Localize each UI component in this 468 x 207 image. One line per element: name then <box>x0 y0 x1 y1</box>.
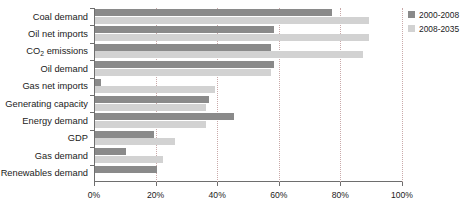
y-tick-mark <box>90 147 94 148</box>
x-tick-label: 20% <box>147 190 164 200</box>
category-label: GDP <box>68 133 88 143</box>
y-tick-mark <box>90 130 94 131</box>
category-label: Generating capacity <box>5 99 88 109</box>
bar <box>95 9 332 16</box>
bar <box>95 79 101 86</box>
bar <box>95 61 274 68</box>
legend-swatch-icon <box>408 11 415 18</box>
category-label: Oil net imports <box>28 29 88 39</box>
x-tick-mark <box>340 182 341 186</box>
x-tick-label: 40% <box>209 190 226 200</box>
bar <box>95 131 154 138</box>
category-label: Gas demand <box>35 151 88 161</box>
x-axis-line <box>94 181 402 182</box>
y-tick-mark <box>90 112 94 113</box>
x-tick-label: 60% <box>270 190 287 200</box>
x-tick-mark <box>156 182 157 186</box>
category-label: Gas net imports <box>22 81 88 91</box>
y-tick-mark <box>90 8 94 9</box>
y-tick-mark <box>90 95 94 96</box>
legend-swatch-icon <box>408 25 415 32</box>
legend-item[interactable]: 2000-2008 <box>408 8 468 21</box>
x-tick-label: 0% <box>88 190 100 200</box>
bar <box>95 34 369 41</box>
bar <box>95 138 175 145</box>
category-label: CO2 emissions <box>26 46 88 57</box>
bar <box>95 26 274 33</box>
y-tick-mark <box>90 25 94 26</box>
bar <box>95 166 157 173</box>
legend-label: 2000-2008 <box>419 10 459 20</box>
bar <box>95 44 271 51</box>
bar <box>95 86 215 93</box>
bar <box>95 69 271 76</box>
y-tick-mark <box>90 60 94 61</box>
bar <box>95 104 206 111</box>
legend-label: 2008-2035 <box>419 24 459 34</box>
bar-chart: Coal demandOil net importsCO2 emissionsO… <box>0 0 468 207</box>
y-tick-mark <box>90 78 94 79</box>
bar <box>95 148 126 155</box>
x-tick-label: 80% <box>332 190 349 200</box>
x-tick-mark <box>279 182 280 186</box>
bar <box>95 113 234 120</box>
category-label: Renewables demand <box>1 168 88 178</box>
chart-legend: 2000-20082008-2035 <box>408 8 468 36</box>
y-tick-mark <box>90 43 94 44</box>
x-tick-label: 100% <box>391 190 413 200</box>
category-label: Coal demand <box>33 12 88 22</box>
bar <box>95 17 369 24</box>
bar <box>95 96 209 103</box>
gridline <box>402 8 404 182</box>
x-tick-mark <box>217 182 218 186</box>
category-label: Energy demand <box>22 116 88 126</box>
bar <box>95 51 363 58</box>
legend-item[interactable]: 2008-2035 <box>408 22 468 35</box>
x-tick-mark <box>402 182 403 186</box>
y-tick-mark <box>90 165 94 166</box>
x-tick-mark <box>94 182 95 186</box>
category-axis-labels: Coal demandOil net importsCO2 emissionsO… <box>0 0 92 207</box>
category-label: Oil demand <box>40 64 88 74</box>
bar <box>95 121 206 128</box>
bar <box>95 156 163 163</box>
plot-area: 0%20%40%60%80%100% <box>94 8 402 182</box>
